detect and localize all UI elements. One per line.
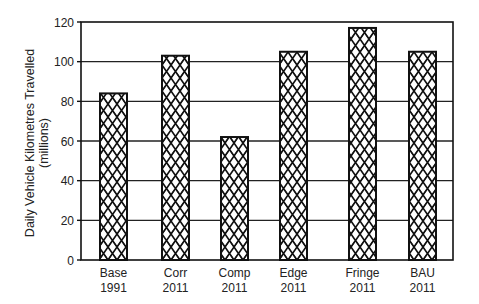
y-axis-label: Daily Vehicle Kilometres Travelled(milli…: [23, 49, 51, 237]
bars: [100, 28, 436, 260]
y-tick-label: 0: [67, 254, 74, 268]
y-tick-label: 60: [61, 135, 75, 149]
y-axis-subtitle: (millions): [37, 118, 51, 168]
x-category-sublabel: 2011: [350, 281, 376, 295]
x-axis-labels: Base1991Corr2011Comp2011Edge2011Fringe20…: [100, 266, 436, 295]
y-tick-label: 80: [61, 95, 75, 109]
gridlines: [81, 62, 453, 221]
x-category-sublabel: 2011: [163, 281, 189, 295]
y-tick-label: 40: [61, 174, 75, 188]
bar-chart: Daily Vehicle Kilometres Travelled(milli…: [0, 0, 479, 304]
bar-fringe: [349, 28, 376, 260]
x-category-sublabel: 2011: [222, 281, 248, 295]
x-category-sublabel: 2011: [410, 281, 436, 295]
x-category-label: Comp: [218, 266, 250, 280]
x-category-label: Fringe: [345, 266, 379, 280]
x-category-label: Edge: [279, 266, 307, 280]
x-category-label: BAU: [410, 266, 435, 280]
y-axis-ticks: 020406080100120: [54, 16, 81, 268]
bar-edge: [280, 52, 307, 260]
bar-corr: [162, 56, 189, 260]
bar-base: [100, 93, 127, 260]
x-category-sublabel: 1991: [100, 281, 127, 295]
y-tick-label: 120: [54, 16, 74, 30]
bar-comp: [221, 137, 248, 260]
y-tick-label: 20: [61, 214, 75, 228]
x-category-label: Corr: [164, 266, 187, 280]
y-tick-label: 100: [54, 55, 74, 69]
x-category-label: Base: [100, 266, 128, 280]
bar-bau: [409, 52, 436, 260]
x-category-sublabel: 2011: [281, 281, 307, 295]
y-axis-title: Daily Vehicle Kilometres Travelled: [23, 49, 37, 237]
